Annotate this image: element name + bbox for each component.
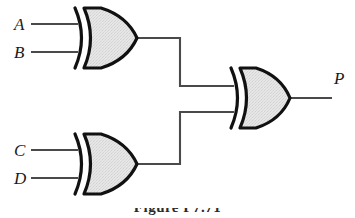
input-label-c: C [14, 142, 26, 159]
gate-xor-2[interactable] [75, 134, 137, 194]
input-label-d: D [14, 170, 26, 187]
circuit-canvas [0, 0, 355, 218]
input-label-b: B [14, 44, 25, 61]
figure-caption-strip: Figure P7.71 [0, 208, 355, 218]
gate-xor-3[interactable] [231, 68, 290, 128]
gate-xor-3-xor-arc [231, 68, 238, 128]
output-label-p: P [334, 70, 345, 87]
wire-gate2-to-gate3 [137, 112, 234, 164]
wire-gate1-to-gate3 [137, 38, 234, 86]
interconnect-wires [137, 38, 234, 164]
gate-xor-2-body [84, 134, 137, 194]
gate-xor-1-xor-arc [75, 8, 82, 68]
input-label-a: A [14, 16, 25, 33]
gate-xor-1[interactable] [75, 8, 137, 68]
gate-xor-1-body [84, 8, 137, 68]
gate-xor-3-body [240, 68, 290, 128]
figure-caption: Figure P7.71 [0, 208, 355, 216]
circuit-diagram-figure: A B C D P Figure P7.71 [0, 0, 355, 218]
input-wires [31, 24, 78, 178]
gate-xor-2-xor-arc [75, 134, 82, 194]
